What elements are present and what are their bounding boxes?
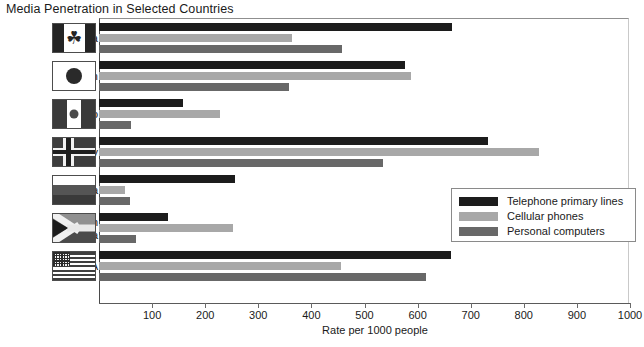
- x-axis-tick-label: 1000: [618, 309, 642, 321]
- usa-flag-icon: [52, 251, 96, 281]
- bar: [99, 45, 342, 53]
- bar: [99, 110, 220, 118]
- x-axis-tick-label: 400: [302, 309, 320, 321]
- canada-flag-icon: ☘: [52, 23, 96, 53]
- x-axis-tick: [630, 303, 631, 308]
- x-axis-tick-label: 700: [462, 309, 480, 321]
- bar-group: [99, 250, 630, 284]
- x-axis-tick-label: 300: [249, 309, 267, 321]
- x-axis-tick-label: 900: [568, 309, 586, 321]
- bar: [99, 61, 405, 69]
- bar: [99, 121, 131, 129]
- mexico-flag-icon: [52, 99, 96, 129]
- bar-group: [99, 60, 630, 94]
- bar: [99, 235, 136, 243]
- x-axis-tick: [205, 303, 206, 308]
- x-axis-title-text: Rate per 1000 people: [322, 324, 428, 336]
- bar: [99, 137, 488, 145]
- bar: [99, 262, 341, 270]
- bar: [99, 224, 233, 232]
- x-axis-tick-label: 600: [408, 309, 426, 321]
- bar: [99, 251, 451, 259]
- category-row: USA: [0, 248, 644, 286]
- x-axis-tick: [471, 303, 472, 308]
- x-axis-tick-label: 100: [143, 309, 161, 321]
- x-axis-tick-label: 200: [196, 309, 214, 321]
- bar: [99, 23, 452, 31]
- x-axis-tick: [152, 303, 153, 308]
- legend-label: Cellular phones: [507, 209, 583, 223]
- bar: [99, 213, 168, 221]
- page-title: Media Penetration in Selected Countries: [6, 2, 234, 16]
- x-axis-tick: [524, 303, 525, 308]
- bar-group: [99, 98, 630, 132]
- bar: [99, 159, 383, 167]
- x-axis-tick: [365, 303, 366, 308]
- legend-swatch: [459, 197, 498, 206]
- legend-label: Telephone primary lines: [507, 194, 623, 208]
- legend-label: Personal computers: [507, 224, 605, 238]
- category-row: Japan: [0, 58, 644, 96]
- x-axis-tick-label: 500: [355, 309, 373, 321]
- bar: [99, 175, 235, 183]
- south-africa-flag-icon: [52, 213, 96, 243]
- x-axis-tick: [258, 303, 259, 308]
- category-row: Norway: [0, 134, 644, 172]
- norway-flag-icon: [52, 137, 96, 167]
- chart-legend: Telephone primary linesCellular phonesPe…: [451, 188, 636, 242]
- x-axis-tick-label: 800: [515, 309, 533, 321]
- bar: [99, 99, 183, 107]
- bar: [99, 197, 130, 205]
- bar: [99, 34, 292, 42]
- legend-swatch: [459, 227, 498, 236]
- bar-group: [99, 22, 630, 56]
- x-axis-tick: [311, 303, 312, 308]
- bar: [99, 148, 539, 156]
- x-axis-title: Rate per 1000 people: [0, 324, 644, 336]
- japan-flag-icon: [52, 61, 96, 91]
- bar: [99, 72, 411, 80]
- russia-flag-icon: [52, 175, 96, 205]
- x-axis-tick: [418, 303, 419, 308]
- chart-container: Media Penetration in Selected Countries …: [0, 0, 644, 347]
- legend-swatch: [459, 212, 498, 221]
- bar: [99, 273, 426, 281]
- category-row: Canada☘: [0, 20, 644, 58]
- bar-group: [99, 136, 630, 170]
- category-row: Mexico: [0, 96, 644, 134]
- bar: [99, 83, 289, 91]
- x-axis-tick: [577, 303, 578, 308]
- bar: [99, 186, 125, 194]
